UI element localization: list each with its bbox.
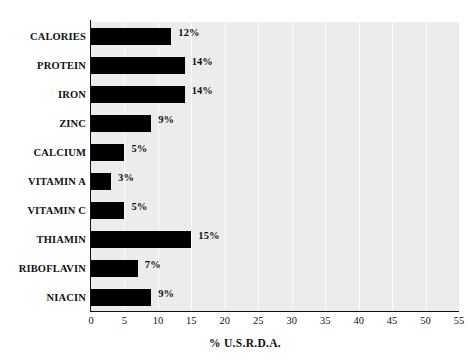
bar-value-label: 15%: [198, 230, 219, 241]
category-label: CALORIES: [30, 22, 86, 51]
category-label: VITAMIN A: [28, 167, 86, 196]
x-tick-label: 50: [420, 315, 431, 326]
category-label: IRON: [58, 80, 86, 109]
x-tick-label: 10: [153, 315, 164, 326]
category-label: PROTEIN: [37, 51, 86, 80]
bars-layer: 12%14%14%9%5%3%5%15%7%9%: [91, 22, 459, 312]
bar-row: 12%: [91, 22, 459, 51]
bar-row: 5%: [91, 196, 459, 225]
bar-value-label: 3%: [118, 172, 134, 183]
bar: [91, 231, 191, 248]
bar-value-label: 14%: [192, 85, 213, 96]
bar-value-label: 5%: [131, 143, 147, 154]
x-tick-label: 25: [253, 315, 264, 326]
bar: [91, 289, 151, 306]
x-tick-label: 5: [122, 315, 127, 326]
bar-value-label: 12%: [178, 27, 199, 38]
x-tick-label: 30: [286, 315, 297, 326]
x-tick-label: 45: [387, 315, 398, 326]
category-axis-labels: CALORIESPROTEINIRONZINCCALCIUMVITAMIN AV…: [0, 22, 86, 312]
category-label: CALCIUM: [34, 138, 86, 167]
bar: [91, 202, 124, 219]
bar-value-label: 7%: [145, 259, 161, 270]
bar-row: 15%: [91, 225, 459, 254]
x-axis-title: % U.S.R.D.A.: [91, 337, 399, 349]
bar: [91, 260, 138, 277]
x-tick-label: 40: [353, 315, 364, 326]
bar-value-label: 5%: [131, 201, 147, 212]
bar-row: 14%: [91, 80, 459, 109]
bar: [91, 28, 171, 45]
bar-chart-figure: CALORIESPROTEINIRONZINCCALCIUMVITAMIN AV…: [0, 0, 468, 363]
bar-row: 7%: [91, 254, 459, 283]
bar: [91, 115, 151, 132]
bar: [91, 173, 111, 190]
x-tick-label: 55: [454, 315, 465, 326]
bar: [91, 57, 185, 74]
bar-row: 9%: [91, 283, 459, 312]
bar-row: 9%: [91, 109, 459, 138]
x-tick-label: 15: [186, 315, 197, 326]
bar-value-label: 14%: [192, 56, 213, 67]
category-label: ZINC: [59, 109, 86, 138]
category-label: THIAMIN: [37, 225, 86, 254]
bar-row: 14%: [91, 51, 459, 80]
category-label: NIACIN: [47, 283, 86, 312]
bar: [91, 86, 185, 103]
bar: [91, 144, 124, 161]
bar-row: 5%: [91, 138, 459, 167]
bar-row: 3%: [91, 167, 459, 196]
category-label: RIBOFLAVIN: [19, 254, 86, 283]
x-tick-label: 0: [88, 315, 93, 326]
x-axis-tick-labels: 0510152025303540455055: [91, 315, 459, 331]
category-label: VITAMIN C: [27, 196, 86, 225]
x-tick-label: 20: [220, 315, 231, 326]
x-tick-label: 35: [320, 315, 331, 326]
bar-value-label: 9%: [158, 288, 174, 299]
bar-value-label: 9%: [158, 114, 174, 125]
gridline: [459, 22, 460, 312]
